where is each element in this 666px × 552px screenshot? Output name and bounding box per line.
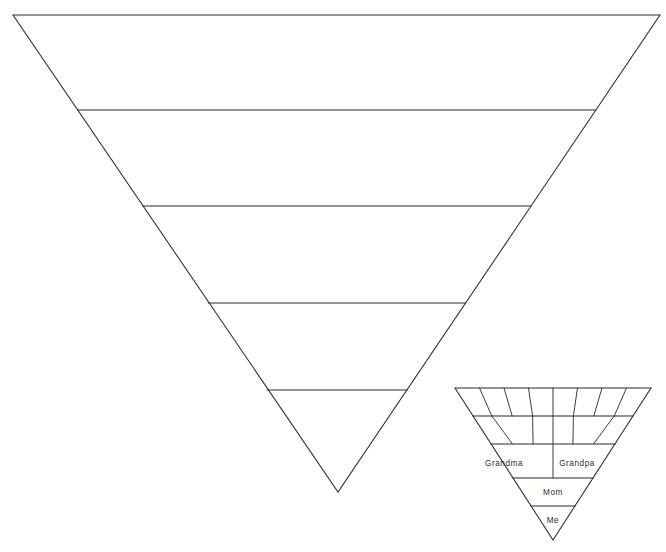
small-triangle-radial-second-r2 — [594, 416, 615, 444]
small-triangle-radial-r4 — [614, 388, 626, 416]
small-triangle-radial-second-r1 — [573, 416, 574, 444]
label-me: Me — [547, 516, 559, 525]
diagram-canvas: Grandma Grandpa Mom Me — [0, 0, 666, 552]
small-triangle-radial-second-l1 — [533, 416, 534, 444]
large-triangle-outline — [13, 15, 660, 492]
small-triangle-radial-l3 — [504, 388, 512, 416]
label-grandpa: Grandpa — [559, 459, 595, 468]
small-ancestor-triangle: Grandma Grandpa Mom Me — [455, 388, 651, 540]
ancestor-chart-diagram: Grandma Grandpa Mom Me — [0, 0, 666, 552]
label-mom: Mom — [543, 488, 563, 497]
large-blank-triangle — [13, 15, 660, 492]
small-triangle-radial-r3 — [594, 388, 602, 416]
small-triangle-radial-l4 — [480, 388, 492, 416]
small-triangle-radial-second-l2 — [492, 416, 513, 444]
label-grandma: Grandma — [485, 459, 523, 468]
small-triangle-radial-r2 — [573, 388, 577, 416]
small-triangle-radial-l2 — [529, 388, 533, 416]
